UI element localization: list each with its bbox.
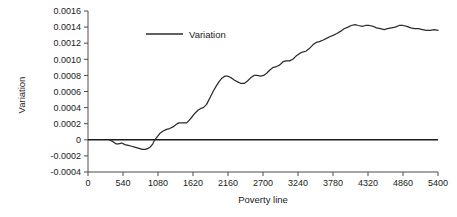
y-tick-label: 0	[76, 135, 81, 145]
x-tick-label: 2700	[253, 178, 273, 188]
x-axis: 0540108016202160270032403780432048605400	[85, 172, 448, 188]
variation-line-chart: 0.00160.00140.00120.00100.00080.00060.00…	[0, 0, 457, 217]
legend-label-variation: Variation	[189, 29, 226, 40]
y-axis: 0.00160.00140.00120.00100.00080.00060.00…	[50, 6, 88, 177]
y-tick-label: 0.0002	[53, 119, 81, 129]
y-axis-ticks	[84, 11, 88, 172]
x-tick-label: 540	[115, 178, 130, 188]
y-tick-label: -0.0004	[50, 167, 81, 177]
y-axis-tick-labels: 0.00160.00140.00120.00100.00080.00060.00…	[50, 6, 81, 177]
x-tick-label: 3780	[323, 178, 343, 188]
x-axis-title: Poverty line	[238, 194, 288, 205]
y-tick-label: 0.0006	[53, 87, 81, 97]
y-tick-label: 0.0016	[53, 6, 81, 16]
x-tick-label: 1080	[148, 178, 168, 188]
x-tick-label: 4860	[393, 178, 413, 188]
x-axis-ticks	[88, 172, 438, 176]
x-tick-label: 5400	[428, 178, 448, 188]
y-tick-label: 0.0004	[53, 103, 81, 113]
x-tick-label: 3240	[288, 178, 308, 188]
y-tick-label: 0.0012	[53, 38, 81, 48]
y-tick-label: -0.0002	[50, 151, 81, 161]
x-tick-label: 4320	[358, 178, 378, 188]
x-axis-tick-labels: 0540108016202160270032403780432048605400	[85, 178, 448, 188]
x-tick-label: 2160	[218, 178, 238, 188]
x-tick-label: 1620	[183, 178, 203, 188]
chart-legend: Variation	[146, 29, 226, 40]
y-tick-label: 0.0014	[53, 22, 81, 32]
x-tick-label: 0	[85, 178, 90, 188]
series-line-variation	[109, 25, 438, 150]
y-tick-label: 0.0010	[53, 55, 81, 65]
y-axis-title: Variation	[16, 77, 27, 114]
y-tick-label: 0.0008	[53, 71, 81, 81]
chart-container: 0.00160.00140.00120.00100.00080.00060.00…	[0, 0, 457, 217]
